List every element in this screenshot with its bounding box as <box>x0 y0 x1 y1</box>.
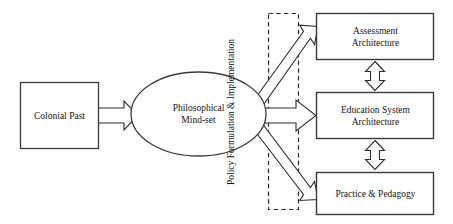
assessment-architecture-box <box>317 14 434 60</box>
philosophical-mindset-ellipse <box>131 72 266 156</box>
practice-pedagogy-box <box>317 173 434 215</box>
education-system-architecture-box <box>317 93 434 139</box>
education-practice-link-arrow <box>366 141 385 170</box>
policy-channel-label: Policy Formulation & Implementation <box>226 14 238 210</box>
assessment-education-link-arrow <box>366 62 385 91</box>
colonial-past-box <box>21 83 99 149</box>
diagram-canvas: Colonial Past Philosophical Mind-set Pol… <box>0 0 453 224</box>
